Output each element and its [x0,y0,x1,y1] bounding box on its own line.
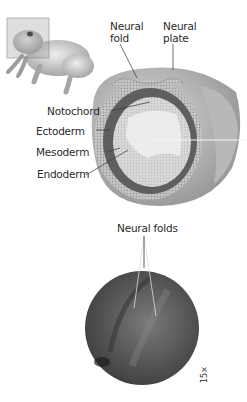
micrograph [85,236,199,385]
label-neural-plate-line1: Neural [163,20,196,32]
label-mesoderm: Mesoderm [36,146,89,158]
label-endoderm: Endoderm [37,168,89,180]
magnification-label: 15× [200,366,209,383]
label-neural-plate: Neural plate [163,20,196,44]
label-neural-fold-line1: Neural [110,20,143,32]
figure-illustration [0,0,247,402]
label-ectoderm: Ectoderm [36,125,85,137]
label-neural-fold-line2: fold [110,32,143,44]
label-neural-plate-line2: plate [163,32,196,44]
label-notochord: Notochord [47,105,100,117]
frog-illustration [7,18,94,92]
embryo-cross-section [92,68,247,207]
label-neural-folds: Neural folds [117,222,178,234]
label-neural-fold: Neural fold [110,20,143,44]
